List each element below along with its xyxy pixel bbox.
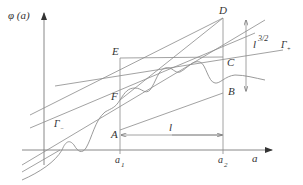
point-a-label: A <box>110 128 118 140</box>
a1-tick-label: a1 <box>115 154 125 169</box>
diagram-canvas: φ (a) a a1 a2 D E C F A B l l3/2 Γ+ Γ− <box>0 0 303 185</box>
line-e-d <box>30 18 223 115</box>
scale-label: l3/2 <box>253 34 268 50</box>
x-axis-label: a <box>252 152 258 164</box>
point-b-label: B <box>228 85 235 97</box>
point-f-label: F <box>110 90 118 102</box>
point-d-label: D <box>218 4 227 16</box>
horizontal-line-ec <box>120 57 223 58</box>
point-e-label: E <box>111 45 119 57</box>
gamma-minus-label: Γ− <box>53 118 64 131</box>
length-label: l <box>169 121 172 133</box>
point-c-label: C <box>227 56 235 68</box>
y-axis-label: φ (a) <box>8 9 30 22</box>
a2-tick-label: a2 <box>218 154 228 169</box>
